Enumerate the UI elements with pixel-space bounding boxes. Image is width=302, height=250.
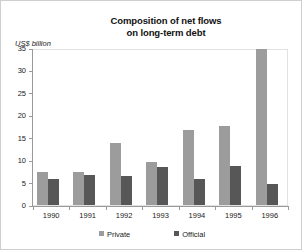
x-axis-tick xyxy=(215,206,216,210)
bar-official-1994 xyxy=(194,179,205,205)
bar-group xyxy=(215,48,251,205)
bar-group xyxy=(142,48,178,205)
x-axis-tick xyxy=(288,206,289,210)
bar-official-1996 xyxy=(267,184,278,205)
chart-title: Composition of net flows on long-term de… xyxy=(41,15,291,39)
y-axis-tick: 35 xyxy=(1,44,33,54)
bar-private-1990 xyxy=(37,172,48,205)
bar-group xyxy=(252,48,288,205)
chart-figure: Composition of net flows on long-term de… xyxy=(0,0,302,250)
legend-swatch-official xyxy=(174,231,179,236)
bar-private-1993 xyxy=(146,162,157,206)
chart-title-line-2: on long-term debt xyxy=(41,27,291,39)
bar-group xyxy=(33,48,69,205)
x-axis-label-1996: 1996 xyxy=(250,211,290,220)
chart-title-line-1: Composition of net flows xyxy=(41,15,291,27)
x-axis-tick xyxy=(69,206,70,210)
y-axis-tick: 30 xyxy=(1,66,33,76)
y-axis-tick-label: 20 xyxy=(18,111,26,121)
bar-private-1995 xyxy=(219,126,230,205)
legend-item-official[interactable]: Official xyxy=(174,229,205,239)
bar-private-1991 xyxy=(73,172,84,205)
x-axis-tick xyxy=(106,206,107,210)
y-axis-tick: 25 xyxy=(1,89,33,99)
x-axis-label-1992: 1992 xyxy=(104,211,144,220)
legend-label-official: Official xyxy=(182,230,205,239)
bar-group xyxy=(179,48,215,205)
plot-area xyxy=(33,49,288,206)
bar-official-1992 xyxy=(121,176,132,205)
bar-group xyxy=(69,48,105,205)
y-axis-tick: 20 xyxy=(1,111,33,121)
y-axis-tick-label: 30 xyxy=(18,66,26,76)
x-axis-tick xyxy=(252,206,253,210)
x-axis-tick xyxy=(179,206,180,210)
legend-label-private: Private xyxy=(107,230,130,239)
x-axis-label-1994: 1994 xyxy=(177,211,217,220)
legend-swatch-private xyxy=(99,231,104,236)
y-axis-tick: 5 xyxy=(1,179,33,189)
x-axis-label-1991: 1991 xyxy=(68,211,108,220)
y-axis-tick: 0 xyxy=(1,201,33,211)
y-axis-tick-label: 15 xyxy=(18,134,26,144)
x-axis-tick xyxy=(142,206,143,210)
x-axis-tick xyxy=(33,206,34,210)
bar-official-1991 xyxy=(84,175,95,205)
bar-official-1993 xyxy=(157,167,168,205)
x-axis-label-1990: 1990 xyxy=(31,211,71,220)
y-axis-tick-label: 5 xyxy=(22,179,26,189)
bar-official-1995 xyxy=(230,166,241,205)
y-axis-tick-label: 25 xyxy=(18,89,26,99)
bar-private-1996 xyxy=(256,49,267,205)
bar-private-1992 xyxy=(110,143,121,205)
x-axis-label-1995: 1995 xyxy=(213,211,253,220)
x-axis-label-1993: 1993 xyxy=(141,211,181,220)
legend-item-private[interactable]: Private xyxy=(99,229,130,239)
chart-legend: PrivateOfficial xyxy=(1,229,302,239)
y-axis-tick: 15 xyxy=(1,134,33,144)
bar-group xyxy=(106,48,142,205)
bar-official-1990 xyxy=(48,179,59,205)
y-axis-tick-label: 35 xyxy=(18,44,26,54)
bar-private-1994 xyxy=(183,130,194,205)
y-axis-tick-label: 10 xyxy=(18,156,26,166)
y-axis-tick: 10 xyxy=(1,156,33,166)
y-axis-tick-label: 0 xyxy=(22,201,26,211)
